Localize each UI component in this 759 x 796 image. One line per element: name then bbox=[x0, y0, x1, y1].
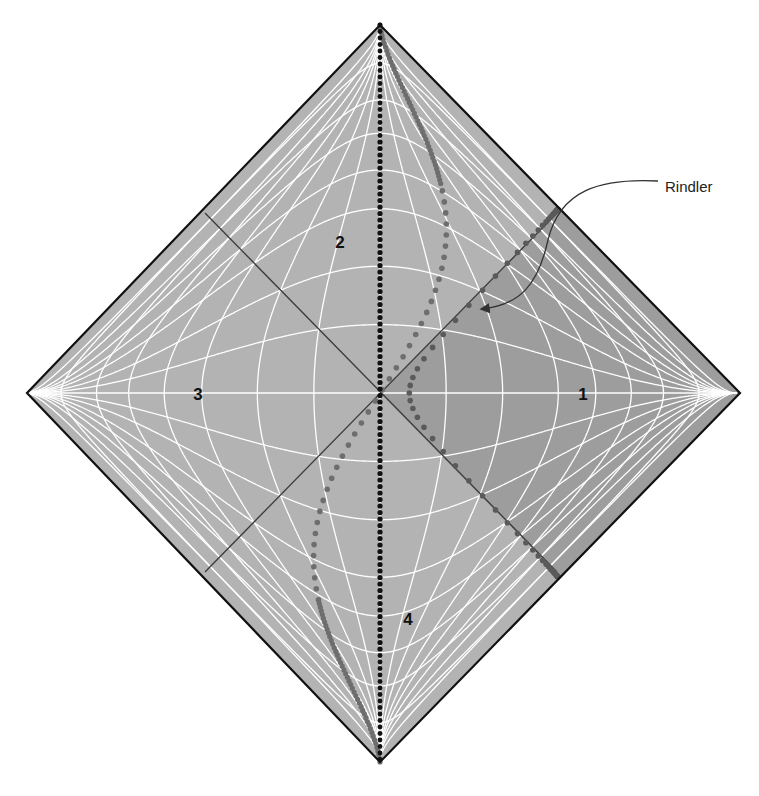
inertial-worldline-dot bbox=[377, 536, 382, 541]
inertial-worldline-dot bbox=[378, 107, 383, 112]
inertial-worldline-dot bbox=[377, 139, 382, 144]
inertial-worldline-dot bbox=[377, 165, 382, 170]
oscillating-worldline-dot bbox=[314, 586, 320, 592]
inertial-worldline-dot bbox=[377, 633, 382, 638]
inertial-worldline-dot bbox=[378, 29, 383, 34]
rindler-worldline-dot bbox=[493, 507, 499, 513]
inertial-worldline-dot bbox=[378, 686, 383, 691]
rindler-worldline-dot bbox=[430, 345, 436, 351]
inertial-worldline-dot bbox=[377, 412, 382, 417]
oscillating-worldline-dot bbox=[394, 365, 400, 371]
oscillating-worldline-dot bbox=[400, 354, 406, 360]
rindler-worldline-dot bbox=[453, 318, 459, 324]
region-label-1: 1 bbox=[578, 385, 587, 404]
inertial-worldline-dot bbox=[377, 367, 382, 372]
rindler-worldline-dot bbox=[540, 558, 546, 564]
oscillating-worldline-dot bbox=[413, 332, 419, 338]
inertial-worldline-dot bbox=[377, 581, 382, 586]
inertial-worldline-dot bbox=[377, 276, 382, 281]
inertial-worldline-dot bbox=[377, 237, 382, 242]
inertial-worldline-dot bbox=[378, 62, 383, 67]
inertial-worldline-dot bbox=[377, 373, 382, 378]
inertial-worldline-dot bbox=[378, 81, 383, 86]
inertial-worldline-dot bbox=[377, 334, 382, 339]
oscillating-worldline-dot bbox=[442, 199, 448, 205]
inertial-worldline-dot bbox=[378, 114, 383, 119]
inertial-worldline-dot bbox=[378, 49, 383, 54]
inertial-worldline-dot bbox=[377, 243, 382, 248]
inertial-worldline-dot bbox=[377, 152, 382, 157]
inertial-worldline-dot bbox=[377, 458, 382, 463]
inertial-worldline-dot bbox=[377, 471, 382, 476]
oscillating-worldline-dot bbox=[444, 232, 450, 238]
inertial-worldline-dot bbox=[377, 503, 382, 508]
inertial-worldline-dot bbox=[377, 185, 382, 190]
inertial-worldline-dot bbox=[377, 256, 382, 261]
inertial-worldline-dot bbox=[377, 354, 382, 359]
inertial-worldline-dot bbox=[377, 191, 382, 196]
inertial-worldline-dot bbox=[377, 302, 382, 307]
rindler-worldline-dot bbox=[421, 424, 427, 430]
inertial-worldline-dot bbox=[377, 523, 382, 528]
inertial-worldline-dot bbox=[378, 55, 383, 60]
oscillating-worldline-dot bbox=[387, 376, 393, 382]
oscillating-worldline-dot bbox=[429, 299, 435, 305]
rindler-worldline-dot bbox=[530, 233, 536, 239]
rindler-worldline-dot bbox=[440, 449, 446, 455]
inertial-worldline-dot bbox=[377, 646, 382, 651]
oscillating-worldline-dot bbox=[340, 453, 346, 459]
inertial-worldline-dot bbox=[378, 127, 383, 132]
inertial-worldline-dot bbox=[377, 432, 382, 437]
rindler-worldline-dot bbox=[505, 520, 511, 526]
inertial-worldline-dot bbox=[378, 133, 383, 138]
oscillating-worldline-dot bbox=[329, 476, 335, 482]
rindler-worldline-dot bbox=[410, 406, 416, 412]
inertial-worldline-dot bbox=[378, 653, 383, 658]
oscillating-worldline-dot bbox=[436, 277, 442, 283]
inertial-worldline-dot bbox=[377, 328, 382, 333]
inertial-worldline-dot bbox=[377, 555, 382, 560]
oscillating-worldline-dot bbox=[373, 398, 379, 404]
inertial-worldline-dot bbox=[377, 321, 382, 326]
oscillating-worldline-dot bbox=[441, 254, 447, 260]
rindler-worldline-dot bbox=[536, 553, 542, 559]
rindler-worldline-dot bbox=[421, 356, 427, 362]
rindler-worldline-dot bbox=[466, 478, 472, 484]
inertial-worldline-dot bbox=[378, 751, 383, 756]
oscillating-worldline-dot bbox=[352, 431, 358, 437]
rindler-label: Rindler bbox=[665, 178, 713, 195]
oscillating-worldline-dot bbox=[313, 531, 319, 537]
region-label-2: 2 bbox=[335, 233, 344, 252]
inertial-worldline-dot bbox=[377, 360, 382, 365]
inertial-worldline-dot bbox=[377, 250, 382, 255]
oscillating-worldline-dot bbox=[407, 343, 413, 349]
inertial-worldline-dot bbox=[377, 594, 382, 599]
oscillating-worldline-dot bbox=[443, 243, 449, 249]
rindler-worldline-dot bbox=[410, 375, 416, 381]
inertial-worldline-dot bbox=[377, 386, 382, 391]
rindler-worldline-dot bbox=[480, 493, 486, 499]
inertial-worldline-dot bbox=[377, 380, 382, 385]
region-label-4: 4 bbox=[403, 610, 413, 629]
inertial-worldline-dot bbox=[378, 738, 383, 743]
oscillating-worldline-dot bbox=[312, 575, 318, 581]
inertial-worldline-dot bbox=[378, 94, 383, 99]
inertial-worldline-dot bbox=[377, 627, 382, 632]
inertial-worldline-dot bbox=[378, 88, 383, 93]
oscillating-worldline-dot bbox=[424, 310, 430, 316]
rindler-worldline-dot bbox=[407, 383, 413, 389]
rindler-worldline-dot bbox=[523, 540, 529, 546]
oscillating-worldline-dot bbox=[359, 420, 365, 426]
inertial-worldline-dot bbox=[378, 120, 383, 125]
inertial-worldline-dot bbox=[377, 178, 382, 183]
rindler-worldline-dot bbox=[493, 273, 499, 279]
inertial-worldline-dot bbox=[377, 549, 382, 554]
inertial-worldline-dot bbox=[377, 263, 382, 268]
inertial-worldline-dot bbox=[377, 341, 382, 346]
inertial-worldline-dot bbox=[377, 438, 382, 443]
inertial-worldline-dot bbox=[377, 282, 382, 287]
inertial-worldline-dot bbox=[377, 497, 382, 502]
inertial-worldline-dot bbox=[378, 725, 383, 730]
inertial-worldline-dot bbox=[377, 224, 382, 229]
inertial-worldline-dot bbox=[378, 666, 383, 671]
